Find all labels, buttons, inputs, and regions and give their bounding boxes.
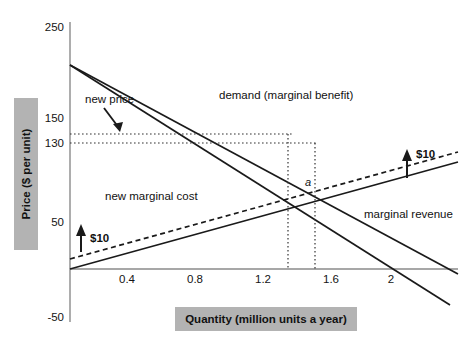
- y-tick-50: 50: [36, 216, 64, 228]
- marginal-revenue-label: marginal revenue: [364, 208, 453, 220]
- point-a-label: a: [305, 176, 311, 188]
- x-tick-0-4: 0.4: [113, 273, 141, 285]
- economics-chart-figure: 250 150 130 50 -50 0.4 0.8 1.2 1.6 2 Pri…: [0, 0, 472, 352]
- x-tick-1-6: 1.6: [317, 273, 345, 285]
- shift-arrow-right: [402, 149, 412, 178]
- new-marginal-cost-label: new marginal cost: [105, 190, 198, 202]
- y-tick-130: 130: [36, 137, 64, 149]
- shift-left-amount-label: $10: [90, 232, 109, 244]
- x-tick-0-8: 0.8: [181, 273, 209, 285]
- y-tick-minus-50: -50: [30, 311, 64, 323]
- x-tick-2: 2: [379, 273, 403, 285]
- demand-curve-label: demand (marginal benefit): [219, 89, 353, 101]
- y-tick-150: 150: [36, 112, 64, 124]
- shift-arrow-left: [76, 224, 86, 252]
- y-axis-title: Price ($ per unit): [14, 98, 38, 250]
- chart-plot-area: [0, 0, 472, 352]
- y-tick-250: 250: [36, 21, 64, 33]
- new-price-callout-arrow: [104, 108, 123, 132]
- new-price-label: new price: [85, 93, 134, 105]
- shift-right-amount-label: $10: [416, 148, 435, 160]
- x-axis-title: Quantity (million units a year): [175, 307, 357, 331]
- x-tick-1-2: 1.2: [249, 273, 277, 285]
